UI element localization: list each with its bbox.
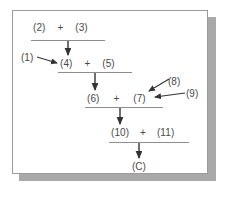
row-3-right-term: (7) [133,93,146,104]
callout-label-1: (1) [21,52,33,63]
callout-label-8: (8) [168,76,180,87]
row-4-operator: + [140,127,146,138]
row-4-left-term: (10) [111,127,129,138]
row-3-left-term: (6) [87,93,100,104]
arrow-callout-9-to-term-7 [155,93,185,97]
row-1-operator: + [57,22,63,33]
equation-row-4: (10) + (11) [111,127,174,138]
equation-row-2: (4) + (5) [60,58,115,69]
row-3-operator: + [113,93,119,104]
row-2-left-term: (4) [60,58,73,69]
row-3-rule [85,107,163,108]
row-2-rule [58,72,132,73]
figure-panel: (2) + (3) (4) + (5) (6) + (7) (10) [12,10,208,174]
row-1-right-term: (3) [75,22,88,33]
synthesis-tree-diagram: (2) + (3) (4) + (5) (6) + (7) (10) [13,11,209,175]
arrow-callout-8-to-term-7 [149,79,169,91]
row-4-right-term: (11) [157,127,174,138]
figure-canvas: (2) + (3) (4) + (5) (6) + (7) (10) [0,0,229,199]
row-4-rule [109,142,189,143]
arrow-callout-1-to-term-4 [37,57,57,63]
equation-row-3: (6) + (7) [87,93,146,104]
final-product-node: (C) [132,161,146,172]
callout-label-9: (9) [186,88,198,99]
row-1-left-term: (2) [33,22,46,33]
row-2-operator: + [84,58,90,69]
equation-row-1: (2) + (3) [33,22,88,33]
row-2-right-term: (5) [102,58,115,69]
row-1-rule [31,40,105,41]
